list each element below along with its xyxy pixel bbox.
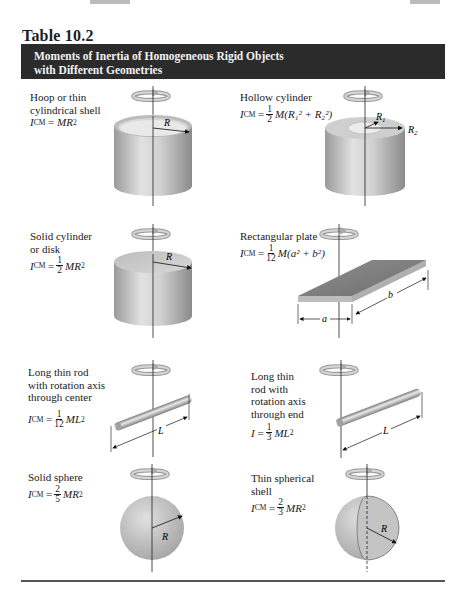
length-label: b <box>388 289 393 300</box>
formula: I = 13 ML2 <box>251 423 306 442</box>
hollow-cylinder-figure: R1 R2 <box>330 88 440 208</box>
radius-label: R <box>165 251 172 262</box>
entry-label: Hoop or thin cylindrical shell <box>30 91 101 116</box>
page-edge-fragment <box>90 0 130 4</box>
entry-solid-cylinder: Solid cylinder or disk ICM = 12 MR2 <box>30 230 92 275</box>
table-title-line-1: Moments of Inertia of Homogeneous Rigid … <box>34 49 445 63</box>
entry-label: Solid sphere <box>28 471 83 484</box>
rotation-arrow-icon <box>133 227 168 238</box>
entry-rod-center: Long thin rod with rotation axis through… <box>28 366 105 429</box>
rod-center-figure: L <box>105 362 200 462</box>
table-title-line-2: with Different Geometries <box>34 63 445 77</box>
bottom-rule <box>21 580 445 582</box>
solid-cylinder-figure: R <box>108 226 208 341</box>
formula: ICM = 112 ML2 <box>28 410 105 429</box>
table-header: Moments of Inertia of Homogeneous Rigid … <box>21 44 445 79</box>
length-label: L <box>157 425 164 436</box>
formula: ICM = 12 MR2 <box>30 256 92 275</box>
entry-label: Hollow cylinder <box>240 91 332 104</box>
entry-solid-sphere: Solid sphere ICM = 25 MR2 <box>28 471 83 504</box>
entry-rod-end: Long thin rod with rotation axis through… <box>251 370 306 442</box>
radius-label: R <box>380 523 387 534</box>
width-label: a <box>322 313 327 324</box>
entry-label: Solid cylinder or disk <box>30 230 92 255</box>
rotation-arrow-icon <box>321 363 356 374</box>
formula: ICM = MR2 <box>30 116 101 128</box>
radius-label: R <box>161 531 168 542</box>
rectangular-plate-figure: a b <box>298 226 438 341</box>
formula: ICM = 23 MR2 <box>251 498 314 517</box>
entry-label: Long thin rod with rotation axis through… <box>28 366 105 404</box>
entry-hollow-cylinder: Hollow cylinder ICM = 12 M(R₁² + R₂²) <box>240 91 332 124</box>
rotation-arrow-icon <box>133 89 168 100</box>
table-number: Table 10.2 <box>22 27 94 45</box>
entry-label: Long thin rod with rotation axis through… <box>251 370 306 420</box>
entry-hoop: Hoop or thin cylindrical shell ICM = MR2 <box>30 91 101 128</box>
formula: ICM = 25 MR2 <box>28 485 83 504</box>
entry-label: Thin spherical shell <box>251 472 314 497</box>
rotation-arrow-icon <box>133 363 168 374</box>
rotation-arrow-icon <box>345 89 380 100</box>
formula: ICM = 12 M(R₁² + R₂²) <box>240 105 332 124</box>
hoop-figure: R <box>108 88 208 208</box>
outer-radius-label: R2 <box>407 124 418 137</box>
entry-spherical-shell: Thin spherical shell ICM = 23 MR2 <box>251 472 314 517</box>
rotation-arrow-icon <box>132 467 167 478</box>
length-label: L <box>382 425 389 436</box>
page-edge-fragment <box>410 0 440 4</box>
solid-sphere-figure: R <box>118 466 198 578</box>
radius-label: R <box>163 117 170 128</box>
rod-end-figure: L <box>320 362 430 462</box>
spherical-shell-figure: R <box>336 466 416 578</box>
rotation-arrow-icon <box>347 467 382 478</box>
